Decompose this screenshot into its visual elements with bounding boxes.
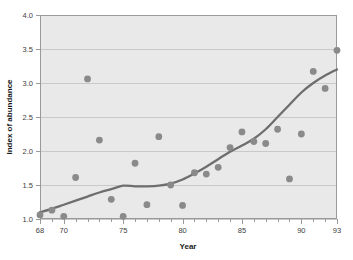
y-tick-label: 1.0 (23, 215, 33, 224)
y-axis-title: Index of abundance (5, 79, 14, 155)
y-tick-label: 1.5 (23, 181, 33, 190)
data-point (250, 138, 257, 145)
y-tick-label: 3.5 (23, 45, 33, 54)
data-point (84, 76, 91, 83)
data-point (96, 137, 103, 144)
y-tick-label: 2.0 (23, 147, 33, 156)
data-point (215, 164, 222, 171)
data-point (191, 169, 198, 176)
data-point (239, 129, 246, 136)
data-point (274, 126, 281, 133)
chart-canvas: 68707580859093 1.01.52.02.53.03.54.0 Yea… (0, 0, 353, 260)
x-tick-label: 68 (36, 226, 44, 235)
y-tick-label: 3.0 (23, 79, 33, 88)
x-tick-label: 90 (297, 226, 305, 235)
data-point (72, 174, 79, 181)
x-tick-label: 70 (60, 226, 68, 235)
data-point (155, 133, 162, 140)
data-point (108, 196, 115, 203)
y-tick-label: 2.5 (23, 113, 33, 122)
data-point (144, 201, 151, 208)
data-point (322, 85, 329, 92)
x-tick-label: 93 (333, 226, 341, 235)
x-tick-label: 75 (119, 226, 127, 235)
data-point (132, 160, 139, 167)
data-point (48, 207, 55, 214)
data-point (37, 212, 44, 219)
data-point (298, 131, 305, 138)
data-point (262, 140, 269, 147)
x-tick-label: 80 (178, 226, 186, 235)
data-point (334, 47, 341, 54)
scatter-chart: 68707580859093 1.01.52.02.53.03.54.0 Yea… (0, 0, 353, 260)
x-tick-label: 85 (238, 226, 246, 235)
data-point (167, 182, 174, 189)
y-tick-label: 4.0 (23, 11, 33, 20)
data-point (286, 175, 293, 182)
data-point (120, 213, 127, 220)
data-point (227, 144, 234, 151)
data-point (310, 68, 317, 75)
x-axis-title: Year (180, 242, 197, 251)
data-point (60, 213, 67, 220)
data-point (179, 202, 186, 209)
data-point (203, 171, 210, 178)
